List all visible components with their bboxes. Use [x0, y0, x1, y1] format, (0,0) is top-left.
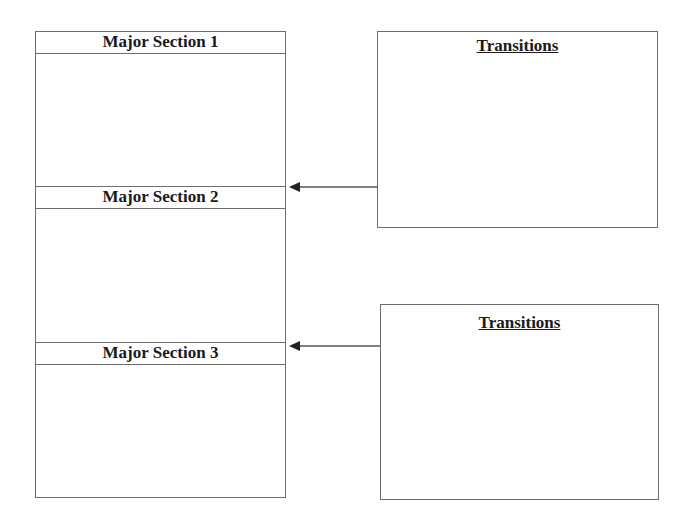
arrow-1 [289, 182, 377, 192]
arrows-layer [0, 0, 691, 524]
arrow-2 [289, 341, 380, 351]
